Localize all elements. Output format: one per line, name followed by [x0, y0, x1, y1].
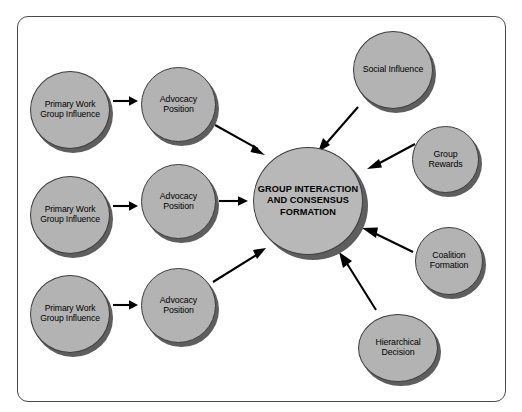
node-primary-work-group-influence-3[interactable]: Primary Work Group Influence	[30, 275, 110, 353]
node-label: Group Rewards	[413, 150, 478, 170]
node-label: Advocacy Position	[142, 95, 215, 115]
node-social-influence[interactable]: Social Influence	[353, 31, 433, 109]
arrow-pwg3-to-adv3	[112, 296, 140, 314]
arrow-adv1-to-center	[212, 122, 270, 160]
node-advocacy-position-2[interactable]: Advocacy Position	[141, 164, 216, 239]
node-label: GROUP INTERACTION AND CONSENSUS FORMATIO…	[254, 184, 362, 218]
node-label: Primary Work Group Influence	[31, 304, 109, 323]
node-group-rewards[interactable]: Group Rewards	[412, 126, 479, 193]
node-label: Advocacy Position	[142, 296, 215, 316]
node-group-interaction-and-consensus-formation[interactable]: GROUP INTERACTION AND CONSENSUS FORMATIO…	[253, 147, 363, 255]
node-label: Primary Work Group Influence	[31, 100, 109, 119]
node-label: Hierarchical Decision	[359, 338, 437, 358]
node-hierarchical-decision[interactable]: Hierarchical Decision	[358, 314, 438, 382]
node-label: Advocacy Position	[142, 192, 215, 212]
node-advocacy-position-3[interactable]: Advocacy Position	[141, 268, 216, 343]
arrow-hier-to-center	[334, 248, 380, 314]
node-label: Coalition Formation	[416, 251, 482, 271]
arrow-pwg1-to-adv1	[112, 92, 140, 110]
arrow-social-to-center	[314, 104, 362, 154]
arrow-adv3-to-center	[210, 246, 270, 286]
arrow-rewards-to-center	[362, 140, 418, 172]
diagram-canvas: Primary Work Group Influence Primary Wor…	[0, 0, 522, 412]
node-primary-work-group-influence-2[interactable]: Primary Work Group Influence	[30, 176, 110, 254]
arrow-pwg2-to-adv2	[112, 197, 140, 215]
node-label: Social Influence	[360, 65, 427, 75]
node-advocacy-position-1[interactable]: Advocacy Position	[141, 67, 216, 142]
node-primary-work-group-influence-1[interactable]: Primary Work Group Influence	[30, 71, 110, 149]
node-coalition-formation[interactable]: Coalition Formation	[415, 227, 483, 295]
node-label: Primary Work Group Influence	[31, 205, 109, 224]
arrow-adv2-to-center	[218, 192, 250, 210]
